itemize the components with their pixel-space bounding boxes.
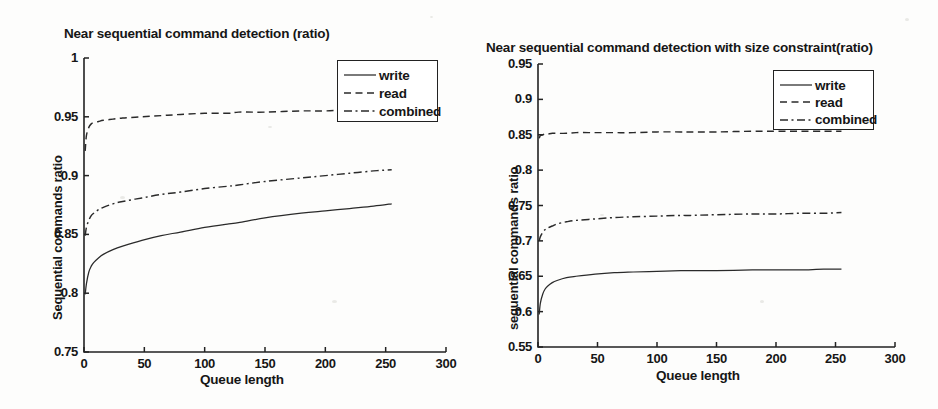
legend-left: writereadcombined: [337, 60, 438, 122]
y-tick-label: 0.6: [476, 304, 532, 319]
x-tick-label: 200: [754, 351, 798, 366]
legend-entry-combined: combined: [338, 101, 437, 121]
scan-artifact: [430, 16, 433, 18]
scan-artifact: [120, 196, 125, 199]
y-tick-label: 0.85: [22, 226, 78, 241]
x-tick-label: 250: [364, 356, 408, 371]
scan-artifact: [905, 18, 909, 21]
x-tick-label: 300: [873, 351, 917, 366]
x-tick-label: 250: [814, 351, 858, 366]
x-tick-label: 100: [635, 351, 679, 366]
y-tick-label: 0.65: [476, 268, 532, 283]
y-tick-label: 1: [22, 50, 78, 65]
chart-panel-right: Near sequential command detection with s…: [468, 0, 938, 409]
scan-artifact: [332, 300, 337, 303]
x-tick-label: 200: [303, 356, 347, 371]
y-tick-label: 0.55: [476, 339, 532, 354]
legend-line-sample-read: [343, 86, 377, 100]
legend-line-sample-write: [343, 68, 377, 82]
series-line-combined: [539, 213, 841, 241]
x-tick-label: 150: [243, 356, 287, 371]
y-tick-label: 0.7: [476, 233, 532, 248]
series-line-write: [539, 269, 841, 314]
series-line-combined: [85, 170, 391, 236]
legend-label: write: [815, 78, 846, 93]
y-tick-label: 0.9: [476, 91, 532, 106]
legend-line-sample-combined: [343, 104, 377, 118]
x-tick-label: 150: [695, 351, 739, 366]
figure-container: Near sequential command detection (ratio…: [0, 0, 938, 409]
legend-entry-read: read: [338, 83, 437, 103]
y-tick-label: 0.75: [22, 344, 78, 359]
scan-artifact: [268, 126, 272, 128]
chart-panel-left: Near sequential command detection (ratio…: [0, 0, 470, 409]
y-tick-label: 0.95: [476, 56, 532, 71]
x-tick-label: 100: [183, 356, 227, 371]
legend-label: combined: [815, 112, 877, 127]
legend-right: writereadcombined: [773, 70, 874, 130]
y-tick-label: 0.95: [22, 109, 78, 124]
series-line-write: [85, 204, 391, 295]
legend-entry-write: write: [338, 65, 437, 85]
legend-label: read: [379, 86, 407, 101]
legend-label: combined: [379, 104, 441, 119]
y-tick-label: 0.9: [22, 168, 78, 183]
scan-artifact: [600, 214, 604, 216]
legend-line-sample-read: [779, 95, 813, 109]
scan-artifact: [820, 120, 823, 122]
scan-artifact: [760, 300, 764, 303]
legend-line-sample-write: [779, 78, 813, 92]
legend-line-sample-combined: [779, 113, 813, 127]
legend-label: write: [379, 68, 410, 83]
x-tick-label: 300: [424, 356, 468, 371]
x-tick-label: 50: [122, 356, 166, 371]
y-tick-label: 0.8: [22, 285, 78, 300]
y-tick-label: 0.85: [476, 127, 532, 142]
x-tick-label: 50: [576, 351, 620, 366]
plot-area-right: [468, 0, 938, 409]
series-line-read: [539, 131, 841, 138]
y-tick-label: 0.8: [476, 162, 532, 177]
legend-label: read: [815, 95, 843, 110]
y-tick-label: 0.75: [476, 198, 532, 213]
legend-entry-combined: combined: [774, 110, 873, 130]
